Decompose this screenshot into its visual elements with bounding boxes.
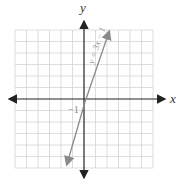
y-axis-label: y — [80, 0, 86, 16]
y-intercept-label: −1 — [68, 104, 79, 115]
coordinate-plane — [0, 0, 183, 179]
x-axis-label: x — [170, 91, 176, 107]
